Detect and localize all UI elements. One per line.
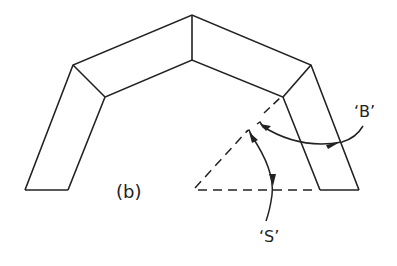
bent-part-outline — [25, 15, 359, 190]
spring-angle-label: ‘S’ — [259, 227, 279, 246]
bend-angle-arc — [262, 126, 363, 144]
spring-arrow-bottom-icon — [269, 174, 276, 186]
fold-line-right — [283, 65, 311, 97]
bend-angle-label: ‘B’ — [354, 102, 375, 121]
spring-arrow-top-icon — [249, 132, 258, 143]
inner-edge — [68, 60, 320, 190]
fold-line-left — [73, 65, 105, 97]
angle-ticks — [246, 122, 264, 136]
bent-channel-diagram: ‘B’ ‘S’ (b) — [0, 0, 397, 266]
dashed-diagonal-upper — [264, 98, 280, 113]
spring-angle-arc — [251, 135, 272, 221]
diagram-canvas: ‘B’ ‘S’ (b) — [0, 0, 397, 266]
panel-label: (b) — [116, 181, 141, 202]
dashed-diagonal-line — [195, 130, 248, 188]
